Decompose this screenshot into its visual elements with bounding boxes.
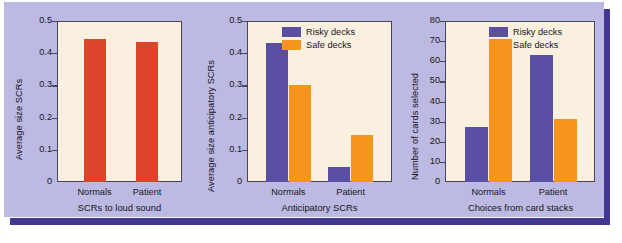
- legend-label-risky: Risky decks: [306, 27, 355, 37]
- y-tick-mark: [242, 118, 247, 119]
- y-tick-label: 0.2: [196, 112, 242, 122]
- y-tick-mark: [242, 150, 247, 151]
- y-tick-mark: [440, 21, 445, 22]
- y-tick-mark: [440, 41, 445, 42]
- y-tick-label: 30: [401, 116, 440, 126]
- y-tick-mark: [440, 61, 445, 62]
- x-axis-title-1: SCRs to loud sound: [37, 202, 202, 213]
- y-tick-label: 60: [401, 55, 440, 65]
- legend-label-safe: Safe decks: [513, 40, 558, 50]
- legend-2: Risky decks Safe decks: [282, 26, 355, 50]
- x-tick-label: Patient: [107, 187, 187, 197]
- y-tick-mark: [52, 118, 57, 119]
- legend-3: Risky decks Safe decks: [489, 26, 562, 50]
- y-tick-mark: [440, 81, 445, 82]
- y-tick-label: 0.5: [196, 15, 242, 25]
- y-tick-label: 0.4: [0, 47, 52, 57]
- y-tick-label: 80: [401, 15, 440, 25]
- figure-root: Average size SCRs 00.10.20.30.40.5 Norma…: [0, 0, 622, 243]
- chart-choices-from-card-stacks: Number of cards selected 010203040506070…: [401, 0, 604, 215]
- y-tick-label: 0.3: [196, 79, 242, 89]
- legend-item-safe-2: Safe decks: [282, 39, 355, 50]
- y-tick-mark: [52, 21, 57, 22]
- bar: [266, 43, 288, 182]
- bar: [465, 127, 488, 182]
- y-tick-label: 0: [196, 176, 242, 186]
- legend-label-safe: Safe decks: [306, 40, 351, 50]
- legend-label-risky: Risky decks: [513, 27, 562, 37]
- y-tick-mark: [440, 102, 445, 103]
- bar: [489, 39, 512, 182]
- y-tick-label: 50: [401, 75, 440, 85]
- bar: [84, 39, 106, 182]
- y-tick-label: 0.5: [0, 15, 52, 25]
- y-tick-mark: [440, 162, 445, 163]
- y-tick-label: 0.2: [0, 112, 52, 122]
- legend-item-risky-3: Risky decks: [489, 26, 562, 37]
- y-tick-label: 70: [401, 35, 440, 45]
- y-tick-mark: [242, 85, 247, 86]
- y-tick-label: 20: [401, 136, 440, 146]
- panel-shadow-bottom: [10, 218, 610, 225]
- panel-shadow-right: [604, 9, 610, 222]
- y-tick-label: 0.1: [0, 144, 52, 154]
- legend-item-risky-2: Risky decks: [282, 26, 355, 37]
- x-axis-title-2: Anticipatory SCRs: [227, 202, 412, 213]
- y-tick-label: 40: [401, 96, 440, 106]
- bar: [554, 119, 577, 182]
- x-tick-label: Patient: [513, 187, 593, 197]
- y-tick-mark: [52, 53, 57, 54]
- plot-area-1: [57, 21, 182, 182]
- x-tick-label: Patient: [311, 187, 391, 197]
- y-tick-label: 0: [0, 176, 52, 186]
- legend-item-safe-3: Safe decks: [489, 39, 562, 50]
- y-tick-label: 0.4: [196, 47, 242, 57]
- y-tick-label: 10: [401, 156, 440, 166]
- y-tick-mark: [242, 21, 247, 22]
- legend-swatch-risky-icon: [282, 27, 301, 37]
- y-tick-label: 0.3: [0, 79, 52, 89]
- y-tick-mark: [440, 122, 445, 123]
- bar: [351, 135, 373, 182]
- y-tick-label: 0.1: [196, 144, 242, 154]
- y-tick-mark: [242, 53, 247, 54]
- y-tick-label: 0: [401, 176, 440, 186]
- bar: [289, 85, 311, 182]
- x-axis-title-3: Choices from card stacks: [423, 202, 618, 213]
- bar: [136, 42, 158, 182]
- y-tick-mark: [52, 85, 57, 86]
- y-tick-mark: [52, 150, 57, 151]
- bar: [328, 167, 350, 182]
- chart-anticipatory-scrs: Average size anticipatory SCRs 00.10.20.…: [196, 0, 401, 215]
- legend-swatch-risky-icon: [489, 27, 508, 37]
- bar: [530, 55, 553, 182]
- y-tick-mark: [440, 142, 445, 143]
- legend-swatch-safe-icon: [282, 40, 301, 50]
- legend-swatch-safe-icon: [489, 40, 508, 50]
- chart-scrs-to-loud-sound: Average size SCRs 00.10.20.30.40.5 Norma…: [0, 0, 196, 215]
